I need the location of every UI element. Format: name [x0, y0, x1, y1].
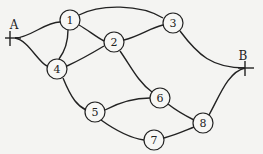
edge-5-6 — [105, 98, 150, 110]
node-3: 3 — [163, 13, 183, 33]
edge-4-5 — [63, 78, 86, 110]
node-3-label: 3 — [170, 17, 177, 30]
edge-1-3 — [79, 7, 163, 18]
node-8: 8 — [193, 113, 213, 133]
terminal-A: A — [5, 18, 21, 46]
terminal-B: B — [238, 49, 254, 76]
edge-A-4 — [15, 38, 47, 66]
edge-2-3 — [124, 25, 163, 40]
edge-1-4 — [59, 30, 68, 59]
edge-1-2 — [79, 25, 104, 41]
node-1: 1 — [60, 10, 80, 30]
node-4: 4 — [47, 59, 67, 79]
edge-7-8 — [164, 127, 194, 138]
node-2-label: 2 — [111, 36, 118, 49]
edge-2-6 — [120, 51, 152, 92]
terminal-A-label: A — [9, 18, 19, 32]
node-6-label: 6 — [157, 92, 164, 105]
edge-4-2 — [67, 46, 104, 66]
node-4-label: 4 — [54, 63, 61, 76]
graph-diagram: A B 1 2 3 4 5 6 7 8 — [0, 0, 263, 154]
node-1-label: 1 — [67, 14, 74, 27]
terminal-B-label: B — [239, 49, 248, 63]
node-5: 5 — [85, 102, 105, 122]
edge-8-B — [209, 68, 245, 115]
edge-6-8 — [168, 104, 194, 120]
edge-3-B — [180, 31, 245, 68]
edge-5-7 — [101, 120, 144, 140]
node-5-label: 5 — [92, 106, 99, 119]
node-6: 6 — [150, 88, 170, 108]
node-2: 2 — [104, 32, 124, 52]
node-7: 7 — [144, 130, 164, 150]
node-8-label: 8 — [200, 117, 207, 130]
node-7-label: 7 — [151, 134, 158, 147]
edge-A-1 — [15, 22, 60, 38]
